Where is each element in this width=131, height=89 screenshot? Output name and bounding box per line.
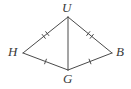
vertex-label-U: U (62, 1, 71, 14)
segment-HU (23, 17, 68, 53)
segment-UB (68, 17, 112, 53)
segment-group (23, 17, 112, 70)
vertex-label-H: H (8, 45, 17, 58)
vertex-label-G: G (63, 72, 72, 85)
geometry-figure: U H B G (0, 0, 131, 89)
vertex-label-B: B (116, 45, 124, 58)
